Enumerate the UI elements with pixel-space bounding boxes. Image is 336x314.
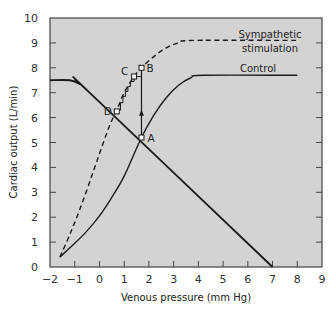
point-label-d: D [104, 105, 112, 117]
y-tick-label: 7 [31, 87, 38, 100]
chart: −2−10123456789012345678910 ABCD Sympathe… [0, 0, 336, 314]
point-label-c: C [121, 65, 128, 77]
x-tick-label: −1 [67, 273, 83, 286]
plot-area [50, 18, 322, 267]
y-axis-label: Cardiac output (L/min) [8, 86, 19, 199]
y-tick-label: 4 [31, 161, 38, 174]
y-tick-label: 9 [31, 37, 38, 50]
x-tick-label: −2 [42, 273, 58, 286]
y-tick-label: 6 [31, 112, 38, 125]
x-tick-label: 2 [145, 273, 152, 286]
y-tick-label: 8 [31, 62, 38, 75]
y-tick-label: 0 [31, 261, 38, 274]
point-label-a: A [147, 132, 155, 144]
x-tick-label: 6 [244, 273, 251, 286]
plot-frame [50, 18, 322, 267]
x-tick-label: 1 [121, 273, 128, 286]
point-label-b: B [146, 62, 153, 74]
y-tick-label: 10 [24, 12, 38, 25]
x-tick-label: 8 [294, 273, 301, 286]
y-tick-label: 1 [31, 236, 38, 249]
x-tick-label: 0 [96, 273, 103, 286]
x-tick-label: 5 [220, 273, 227, 286]
y-tick-label: 5 [31, 137, 38, 150]
legend-sympathetic-line1: Sympathetic [238, 29, 301, 40]
legend-sympathetic-line2: stimulation [242, 43, 298, 54]
legend-control: Control [240, 63, 276, 74]
point-marker-c [132, 74, 137, 79]
point-marker-a [139, 135, 144, 140]
x-tick-label: 7 [269, 273, 276, 286]
y-tick-label: 3 [31, 186, 38, 199]
x-axis-label: Venous pressure (mm Hg) [121, 292, 251, 303]
x-tick-label: 4 [195, 273, 202, 286]
x-tick-label: 9 [319, 273, 326, 286]
point-marker-b [139, 65, 144, 70]
point-marker-d [114, 109, 119, 114]
x-tick-label: 3 [170, 273, 177, 286]
y-tick-label: 2 [31, 211, 38, 224]
